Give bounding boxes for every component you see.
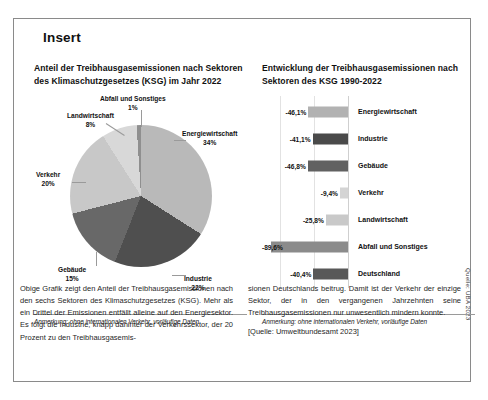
pie-label-landwirtschaft-value: 8% [67,120,114,129]
bar-category-label: Deutschland [348,270,400,277]
bar-value-label: -46,1% [285,108,306,115]
insert-legend-label: Insert [38,30,88,45]
pie-chart-panel: Anteil der Treibhausgasemissionen nach S… [34,62,247,297]
bar-category-label: Industrie [348,135,388,142]
bar-chart-title: Entwicklung der Treibhausgasemissionen n… [262,62,475,88]
bar-track: -46,8% [262,152,348,179]
bar-segment [308,160,348,171]
bar-chart-figure: -46,1%Energiewirtschaft-41,1%Industrie-4… [262,92,475,297]
pie-chart-figure: Abfall und Sonstiges 1% Landwirtschaft 8… [34,92,247,297]
pie-label-gebaeude-name: Gebäude [58,266,86,273]
bar-value-label: -46,8% [285,162,306,169]
pie-label-energiewirtschaft-name: Energiewirtschaft [182,130,237,137]
bar-segment [313,268,348,279]
body-paragraph-left: Obige Grafik zeigt den Anteil der Treibh… [20,283,233,344]
body-text-left-column: Obige Grafik zeigt den Anteil der Treibh… [20,283,233,344]
bar-value-label: -40,4% [290,270,311,277]
bar-segment [308,106,348,117]
pie-label-landwirtschaft: Landwirtschaft 8% [67,111,114,130]
pie-label-energiewirtschaft: Energiewirtschaft 34% [182,129,237,148]
bar-row: -25,8%Landwirtschaft [262,206,475,233]
bar-track: -9,4% [262,179,348,206]
bar-track: -46,1% [262,98,348,125]
pie-chart-title: Anteil der Treibhausgasemissionen nach S… [34,62,247,88]
bar-chart-plot: -46,1%Energiewirtschaft-41,1%Industrie-4… [262,96,475,292]
body-source-citation: [Quelle: Umweltbundesamt 2023] [248,326,461,338]
bar-value-label: -41,1% [290,135,311,142]
bar-value-label: -89,6% [262,243,283,250]
bar-row: -9,4%Verkehr [262,179,475,206]
body-text-right-column: sionen Deutschlands beitrug. Damit ist d… [248,283,461,339]
bar-track: -89,6% [262,233,348,260]
bar-segment [326,214,348,225]
pie-label-verkehr-value: 20% [36,179,60,188]
pie-label-gebaeude: Gebäude 15% [58,265,86,284]
pie-label-verkehr: Verkehr 20% [36,170,60,189]
bar-row: -46,1%Energiewirtschaft [262,98,475,125]
bar-value-label: -25,8% [303,216,324,223]
bar-value-label: -9,4% [321,189,338,196]
bar-category-label: Verkehr [348,189,384,196]
bar-row: -41,1%Industrie [262,125,475,152]
pie-label-abfall-und-sonstiges: Abfall und Sonstiges 1% [100,94,166,113]
pie-leader-line-verkehr [72,182,86,183]
body-paragraph-right: sionen Deutschlands beitrug. Damit ist d… [248,283,461,319]
chart-source-label: Quelle: UBA 2023 [465,268,472,320]
bar-category-label: Landwirtschaft [348,216,408,223]
pie-label-abfall-name: Abfall und Sonstiges [100,95,166,102]
pie-label-industrie-name: Industrie [184,275,212,282]
bar-segment [340,187,348,198]
bar-row: -89,6%Abfall und Sonstiges [262,233,475,260]
bar-track: -25,8% [262,206,348,233]
pie-label-energiewirtschaft-value: 34% [182,138,237,147]
bar-category-label: Gebäude [348,162,388,169]
bar-segment [313,133,348,144]
pie-label-landwirtschaft-name: Landwirtschaft [67,112,114,119]
bar-category-label: Abfall und Sonstiges [348,243,428,250]
bar-track: -41,1% [262,125,348,152]
pie-leader-line-gebaeude [96,252,97,266]
pie-label-verkehr-name: Verkehr [36,171,60,178]
bar-chart-panel: Entwicklung der Treibhausgasemissionen n… [262,62,475,297]
bar-row: -46,8%Gebäude [262,152,475,179]
bar-category-label: Energiewirtschaft [348,108,417,115]
